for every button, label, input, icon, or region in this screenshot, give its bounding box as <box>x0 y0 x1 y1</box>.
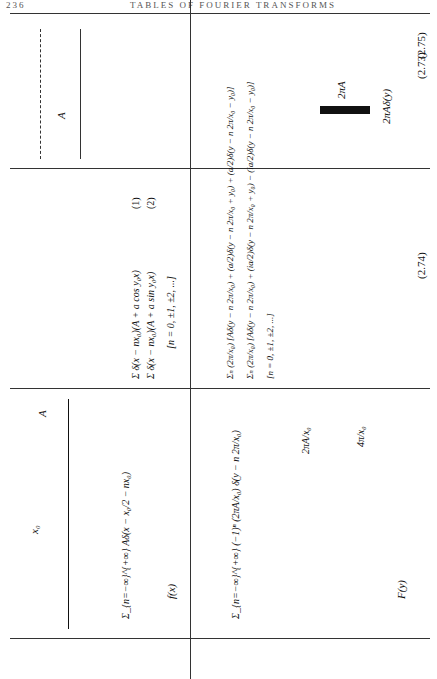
row-2-75-f-dashed-line <box>40 29 41 159</box>
label-2piA-x0: 2πA/x₀ <box>300 427 311 454</box>
table-border-right <box>10 13 430 14</box>
label-A: A <box>36 410 48 417</box>
row-2-74-f-formula-2: Σ δ(x − nx₀)(A + a sin y₀x) <box>145 272 156 379</box>
row-2-75-F-formula: 2πAδ(y) <box>380 89 392 124</box>
row-divider-2 <box>10 168 430 169</box>
row-2-73-F-formula: Σ_{n=−∞}^{+∞} (−1)ⁿ (2πA/x₀) δ(y − n 2π/… <box>230 430 241 619</box>
row-2-75-f-label-A: A <box>55 112 67 119</box>
transform-table: f(x) F(y) (2.73) Σ_{n=−∞}^{+∞} Aδ(x − x₀… <box>0 0 437 679</box>
column-divider <box>190 0 191 679</box>
column-header-F: F(y) <box>395 580 407 599</box>
table-border-left <box>10 638 430 639</box>
row-2-75-f-line <box>80 29 81 159</box>
row-2-74-f-range: [n = 0, ±1, ±2, ...] <box>165 276 176 349</box>
row-2-74-f-tag-2: (2) <box>145 197 156 209</box>
eq-number-2-75: (2.75) <box>415 32 427 59</box>
label-x0: x₀ <box>28 525 40 534</box>
eq-number-2-74: (2.74) <box>415 252 427 279</box>
row-2-74-f-formula-1: Σ δ(x − nx₀)(A + a cos y₀x) <box>130 270 141 379</box>
row-2-75-F-label-2piA: 2πA <box>335 81 347 99</box>
column-header-f: f(x) <box>165 584 177 599</box>
row-2-74-F-formula-2: Σₙ (2π/x₀) [Aδ(y − n 2π/x₀) + (ia/2)δ(y … <box>245 81 255 379</box>
row-divider-1 <box>10 388 430 389</box>
row-2-73-f-formula: Σ_{n=−∞}^{+∞} Aδ(x − x₀/2 − nx₀) <box>120 472 131 619</box>
row-2-74-F-range: [n = 0, ±1, ±2, ...] <box>265 313 275 379</box>
row-2-75-F-spike <box>320 106 370 114</box>
label-4pi-x0: 4π/x₀ <box>355 426 366 447</box>
row-2-74-F-formula-1: Σₙ (2π/x₀) [Aδ(y − n 2π/x₀) + (a/2)δ(y −… <box>225 86 235 379</box>
row-2-74-f-tag-1: (1) <box>130 197 141 209</box>
